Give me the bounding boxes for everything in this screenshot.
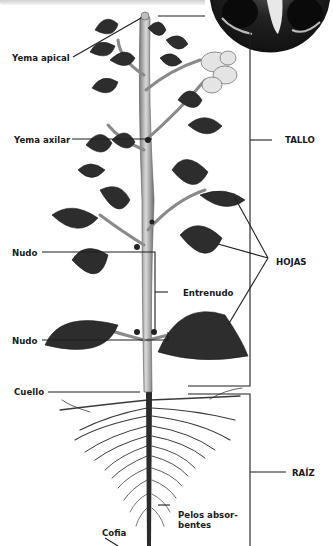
label-yema-axilar: Yema axilar [14,135,70,145]
main-stem [139,14,154,392]
label-nudo-inferior: Nudo [12,336,37,346]
label-hojas: HOJAS [276,257,307,267]
flower-cluster [201,51,237,93]
label-pelos-absorbentes-1: Pelos absor- [178,510,238,520]
label-entrenudo: Entrenudo [183,288,233,298]
label-yema-apical: Yema apical [12,53,70,63]
label-cofia: Cofia [102,528,126,538]
plant-illustration [0,0,333,546]
label-raiz: RAÍZ [292,468,315,478]
main-root [146,392,152,546]
label-cuello: Cuello [14,387,44,397]
plant-diagram: Yema apical Yema axilar Nudo Entrenudo N… [0,0,333,546]
inset-flower-photo [208,0,332,54]
label-pelos-absorbentes-2: bentes [178,520,211,530]
label-tallo: TALLO [285,135,315,145]
leader-lines [42,16,286,546]
label-nudo-superior: Nudo [12,248,37,258]
